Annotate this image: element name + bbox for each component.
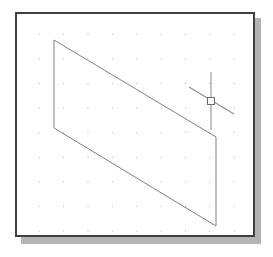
drawing-viewport[interactable] xyxy=(17,14,253,235)
cursor-layer xyxy=(17,14,253,235)
cad-drawing-window[interactable] xyxy=(15,12,255,237)
cursor-pickbox-icon xyxy=(208,98,215,105)
screenshot-root xyxy=(0,0,273,257)
